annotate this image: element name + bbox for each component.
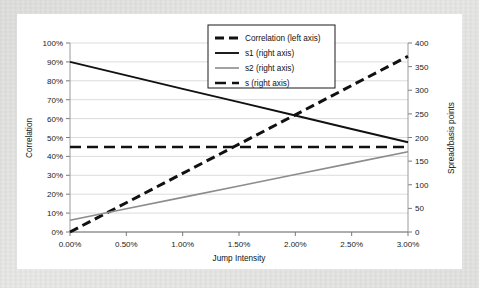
x-axis-tick-label: 0.00%: [59, 240, 82, 249]
x-axis-label: Jump Intensity: [213, 254, 267, 263]
y-axis-right-label: Spread/basis points: [447, 102, 456, 174]
legend-label: s2 (right axis): [245, 64, 294, 73]
figure-card: 0%10%20%30%40%50%60%70%80%90%100% 050100…: [17, 14, 462, 269]
y-axis-right-tick-label: 400: [415, 39, 429, 48]
y-axis-left-tick-label: 10%: [47, 209, 63, 218]
y-axis-left-label: Correlation: [25, 118, 34, 158]
y-axis-left-tick-label: 40%: [47, 152, 63, 161]
legend-label: s (right axis): [245, 79, 290, 88]
series-line: [70, 152, 408, 221]
chart-legend: Correlation (left axis)s1 (right axis)s2…: [208, 25, 335, 88]
y-axis-right-tick-label: 50: [415, 204, 424, 213]
y-axis-right-tick-label: 0: [415, 228, 420, 237]
x-axis-tick-label: 1.50%: [228, 240, 251, 249]
y-axis-left-tick-label: 30%: [47, 171, 63, 180]
x-axis-tick-label: 2.50%: [340, 240, 363, 249]
y-axis-left-ticks: 0%10%20%30%40%50%60%70%80%90%100%: [43, 39, 70, 237]
y-axis-right-tick-label: 200: [415, 134, 429, 143]
y-axis-left-tick-label: 80%: [47, 77, 63, 86]
y-axis-left-tick-label: 20%: [47, 190, 63, 199]
x-axis-ticks: 0.00%0.50%1.00%1.50%2.00%2.50%3.00%: [59, 232, 420, 249]
y-axis-left-tick-label: 0%: [51, 228, 63, 237]
y-axis-left-tick-label: 70%: [47, 96, 63, 105]
legend-label: Correlation (left axis): [245, 34, 321, 43]
y-axis-right-tick-label: 300: [415, 86, 429, 95]
y-axis-right-tick-label: 150: [415, 157, 429, 166]
x-axis-tick-label: 0.50%: [115, 240, 138, 249]
x-axis-tick-label: 1.00%: [171, 240, 194, 249]
legend-label: s1 (right axis): [245, 49, 294, 58]
y-axis-left-tick-label: 90%: [47, 58, 63, 67]
y-axis-left-tick-label: 50%: [47, 134, 63, 143]
y-axis-left-tick-label: 100%: [43, 39, 63, 48]
y-axis-right-tick-label: 250: [415, 110, 429, 119]
y-axis-right-ticks: 050100150200250300350400: [408, 39, 429, 237]
x-axis-tick-label: 3.00%: [397, 240, 420, 249]
chart-svg: 0%10%20%30%40%50%60%70%80%90%100% 050100…: [17, 14, 462, 269]
chart-container: 0%10%20%30%40%50%60%70%80%90%100% 050100…: [17, 14, 462, 269]
x-axis-tick-label: 2.00%: [284, 240, 307, 249]
y-axis-right-tick-label: 100: [415, 181, 429, 190]
y-axis-right-tick-label: 350: [415, 63, 429, 72]
y-axis-left-tick-label: 60%: [47, 115, 63, 124]
